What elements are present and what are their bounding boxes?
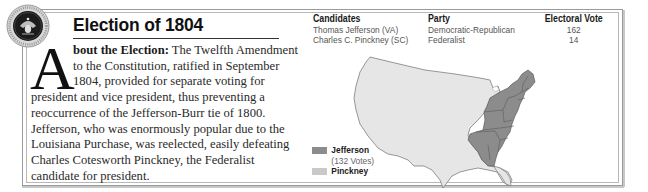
cell-candidate-2: Charles C. Pinckney (SC) xyxy=(313,35,408,46)
article-lead: bout the Election: xyxy=(73,43,169,57)
results-column-candidates: Candidates Thomas Jefferson (VA) Charles… xyxy=(313,14,408,46)
cell-ev-2: 14 xyxy=(535,35,612,46)
article-line-1: bout the Election: The Twelfth Amendment xyxy=(31,43,291,59)
legend-swatch-jefferson xyxy=(312,147,327,154)
legend-label-jefferson: Jefferson xyxy=(331,145,369,156)
page-title: Election of 1804 xyxy=(73,14,203,36)
cell-party-2: Federalist xyxy=(428,35,515,46)
article-body: bout the Election: The Twelfth Amendment… xyxy=(31,43,291,184)
article-line-6: Jefferson, who was enormously popular du… xyxy=(31,122,291,138)
legend-item-jefferson: Jefferson xyxy=(312,145,374,156)
column-header-party: Party xyxy=(428,14,515,25)
frame-shadow-right xyxy=(623,10,625,187)
article-line-5: reoccurrence of the Jefferson-Burr tie o… xyxy=(31,106,291,122)
map-legend: Jefferson (132 Votes) Pinckney xyxy=(312,145,374,177)
results-column-electoral-vote: Electoral Vote 162 14 xyxy=(535,14,612,46)
legend-swatch-pinckney xyxy=(312,168,327,175)
title-rule xyxy=(73,38,279,39)
article-line-8: Charles Cotesworth Pinckney, the Federal… xyxy=(31,153,291,169)
column-header-candidates: Candidates xyxy=(313,14,408,25)
column-header-electoral-vote: Electoral Vote xyxy=(535,14,612,25)
article-line-3: 1804, provided for separate voting for xyxy=(31,74,291,90)
legend-label-pinckney: Pinckney xyxy=(331,166,368,177)
article-line-9: candidate for president. xyxy=(31,169,291,185)
results-column-party: Party Democratic-Republican Federalist xyxy=(428,14,515,46)
article-line-4: president and vice president, thus preve… xyxy=(31,90,291,106)
article-line-7: Louisiana Purchase, was reelected, easil… xyxy=(31,137,291,153)
article-line-2: to the Constitution, ratified in Septemb… xyxy=(31,59,291,75)
legend-item-pinckney: Pinckney xyxy=(312,166,374,177)
